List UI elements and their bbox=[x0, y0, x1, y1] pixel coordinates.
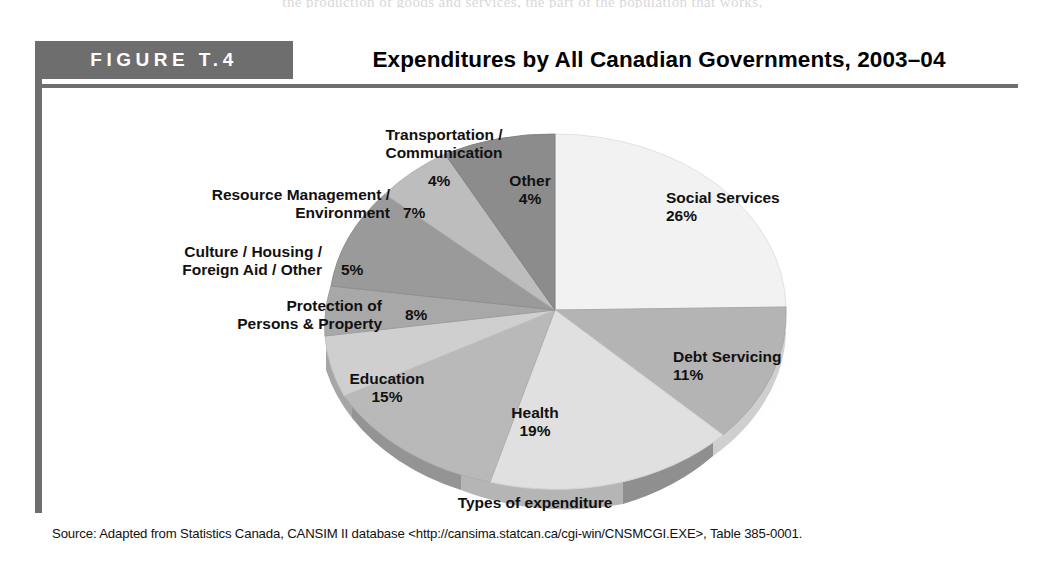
pie-label-debt-servicing-value: 11% bbox=[673, 366, 782, 384]
figure-left-rule bbox=[35, 41, 42, 513]
pie-label-other-value: 4% bbox=[501, 190, 559, 208]
pie-label-resource-management-line1: Resource Management / bbox=[160, 186, 390, 204]
pie-label-culture-housing-value: 5% bbox=[341, 261, 363, 279]
pie-label-social-services-line1: Social Services bbox=[666, 189, 780, 207]
pie-label-health-line1: Health bbox=[490, 404, 580, 422]
page-title: Expenditures by All Canadian Governments… bbox=[300, 41, 1018, 79]
pie-label-protection-value: 8% bbox=[405, 306, 427, 324]
pie-label-culture-housing-line2: Foreign Aid / Other bbox=[122, 261, 322, 279]
pie-label-resource-management-line2: Environment bbox=[160, 204, 390, 222]
pie-label-transportation-line2: Communication bbox=[360, 144, 528, 162]
figure-container: FIGURE T.4 Expenditures by All Canadian … bbox=[0, 0, 1045, 572]
source-note: Source: Adapted from Statistics Canada, … bbox=[52, 526, 1012, 541]
pie-label-transportation-line1: Transportation / bbox=[360, 126, 528, 144]
figure-title-rule bbox=[35, 84, 1018, 88]
pie-label-protection-line1: Protection of bbox=[186, 297, 382, 315]
pie-label-education-line1: Education bbox=[332, 370, 442, 388]
pie-label-resource-management: Resource Management / Environment bbox=[160, 186, 390, 221]
pie-label-transportation: Transportation / Communication bbox=[360, 126, 528, 161]
pie-label-health: Health 19% bbox=[490, 404, 580, 439]
pie-label-culture-housing-line1: Culture / Housing / bbox=[122, 243, 322, 261]
pie-label-other-line1: Other bbox=[501, 172, 559, 190]
pie-label-debt-servicing: Debt Servicing 11% bbox=[673, 348, 782, 383]
pie-label-transportation-value: 4% bbox=[428, 172, 450, 190]
pie-label-social-services-value: 26% bbox=[666, 207, 780, 225]
pie-label-protection: Protection of Persons & Property bbox=[186, 297, 382, 332]
pie-label-education-value: 15% bbox=[332, 388, 442, 406]
pie-label-resource-management-value: 7% bbox=[403, 204, 425, 222]
pie-label-health-value: 19% bbox=[490, 422, 580, 440]
pie-label-debt-servicing-line1: Debt Servicing bbox=[673, 348, 782, 366]
pie-label-education: Education 15% bbox=[332, 370, 442, 405]
pie-label-other: Other 4% bbox=[501, 172, 559, 207]
pie-label-protection-line2: Persons & Property bbox=[186, 315, 382, 333]
figure-number-label: FIGURE T.4 bbox=[35, 41, 293, 79]
pie-label-social-services: Social Services 26% bbox=[666, 189, 780, 224]
pie-label-culture-housing: Culture / Housing / Foreign Aid / Other bbox=[122, 243, 322, 278]
axis-caption: Types of expenditure bbox=[395, 494, 675, 512]
